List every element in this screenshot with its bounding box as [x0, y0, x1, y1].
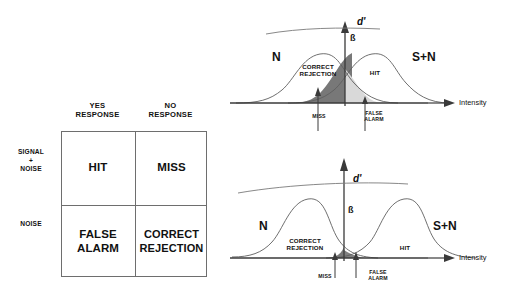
hit-region-label-bottom: HIT	[385, 244, 425, 251]
row-header-signal-noise: SIGNAL+NOISE	[2, 148, 60, 174]
row-header-noise: NOISE	[2, 220, 60, 229]
column-header-yes-response: YESRESPONSE	[61, 101, 134, 120]
noise-curve-label-bottom: N	[259, 219, 268, 233]
criterion-arrowhead	[340, 158, 348, 171]
distribution-plot-high-sensitivity: d' ß N S+N CORRECTREJECTION HIT MISS FAL…	[230, 150, 528, 296]
false-alarm-arrow-label-top: FALSEALARM	[353, 110, 395, 123]
criterion-arrowhead	[341, 21, 349, 33]
signal-curve-label-top: S+N	[412, 50, 436, 64]
dprime-span-line	[266, 28, 380, 34]
correct-rejection-region-label-top: CORRECTREJECTION	[285, 63, 351, 78]
distribution-plot-low-sensitivity: d' ß N S+N CORRECTREJECTION HIT MISS FAL…	[230, 0, 528, 150]
dprime-label-top: d'	[357, 16, 366, 27]
outcome-matrix-panel: YESRESPONSE NORESPONSE SIGNAL+NOISE NOIS…	[0, 90, 226, 296]
intensity-axis-label-top: Intensity	[459, 98, 487, 107]
beta-label-top: ß	[350, 33, 356, 43]
matrix-grid: HIT MISS FALSEALARM CORRECTREJECTION	[61, 131, 207, 277]
false-alarm-arrow-label-bottom: FALSEALARM	[357, 269, 399, 282]
matrix-cell-false-alarm: FALSEALARM	[62, 206, 134, 278]
miss-pointer-arrowhead	[315, 87, 321, 96]
intensity-axis-arrowhead	[444, 254, 455, 262]
noise-curve-label-top: N	[272, 50, 281, 64]
correct-rejection-region-label-bottom: CORRECTREJECTION	[272, 237, 338, 252]
matrix-cell-correct-rejection: CORRECTREJECTION	[136, 206, 208, 278]
miss-arrow-label-bottom: MISS	[308, 273, 342, 279]
signal-curve-label-bottom: S+N	[433, 219, 457, 233]
miss-arrow-label-top: MISS	[302, 113, 336, 119]
matrix-cell-miss: MISS	[136, 132, 208, 204]
miss-shaded-region	[290, 53, 352, 103]
dprime-label-bottom: d'	[353, 173, 362, 184]
dprime-span-line	[238, 183, 408, 193]
intensity-axis-label-bottom: Intensity	[459, 253, 487, 262]
column-header-no-response: NORESPONSE	[134, 101, 207, 120]
beta-label-bottom: ß	[348, 205, 354, 215]
signal-detection-figure: YESRESPONSE NORESPONSE SIGNAL+NOISE NOIS…	[0, 0, 528, 296]
matrix-cell-hit: HIT	[62, 132, 134, 204]
intensity-axis-arrowhead	[444, 99, 455, 107]
hit-region-label-top: HIT	[355, 69, 395, 76]
